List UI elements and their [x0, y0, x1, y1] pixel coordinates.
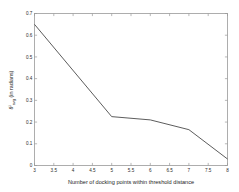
y-tick-label: 0	[30, 163, 33, 168]
figure-background	[0, 0, 239, 192]
y-tick-label: 0.7	[26, 11, 33, 16]
x-tick-label: 6	[149, 168, 152, 173]
x-tick-label: 3	[33, 168, 36, 173]
y-tick-label: 0.5	[26, 55, 33, 60]
y-tick-label: 0.2	[26, 120, 33, 125]
x-tick-label: 8	[226, 168, 229, 173]
x-tick-label: 4	[72, 168, 75, 173]
y-axis-title-rest: (in radians)	[8, 70, 14, 99]
x-tick-label: 3.5	[51, 168, 58, 173]
x-tick-label: 7.5	[205, 168, 212, 173]
y-tick-label: 0.3	[26, 98, 33, 103]
x-tick-label: 6.5	[166, 168, 173, 173]
y-tick-label: 0.1	[26, 141, 33, 146]
y-tick-label: 0.4	[26, 76, 33, 81]
figure-container: 33.544.555.566.577.58 00.10.20.30.40.50.…	[0, 0, 239, 192]
x-tick-label: 5	[110, 168, 113, 173]
y-tick-label: 0.6	[26, 33, 33, 38]
x-axis-title: Number of docking points within threshol…	[68, 179, 194, 185]
line-chart: 33.544.555.566.577.58 00.10.20.30.40.50.…	[0, 0, 239, 192]
x-tick-label: 4.5	[89, 168, 96, 173]
x-tick-label: 5.5	[128, 168, 135, 173]
x-tick-label: 7	[188, 168, 191, 173]
